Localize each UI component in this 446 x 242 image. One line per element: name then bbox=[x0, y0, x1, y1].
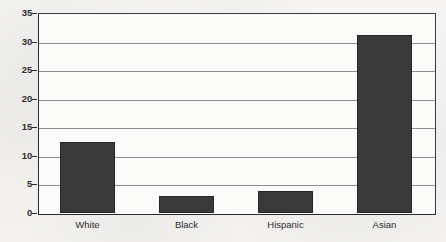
bar-slot bbox=[335, 13, 434, 213]
y-axis-tick-mark bbox=[32, 184, 37, 185]
y-axis-tick-mark bbox=[32, 213, 37, 214]
y-axis-tick-mark bbox=[32, 156, 37, 157]
bar-white[interactable] bbox=[60, 142, 115, 213]
y-axis-tick-label: 5 bbox=[6, 180, 32, 190]
x-axis-label-hispanic: Hispanic bbox=[236, 218, 335, 232]
bar-chart-figure: 05101520253035 WhiteBlackHispanicAsian bbox=[0, 0, 446, 242]
bar-slot bbox=[137, 13, 236, 213]
x-axis-label-black: Black bbox=[137, 218, 236, 232]
bar-black[interactable] bbox=[159, 196, 214, 213]
y-axis-tick-mark bbox=[32, 127, 37, 128]
y-axis-tick-label: 35 bbox=[6, 8, 32, 18]
bar-asian[interactable] bbox=[357, 35, 412, 213]
y-axis-tick-mark bbox=[32, 42, 37, 43]
bars-layer bbox=[38, 13, 434, 213]
y-axis-tick-label: 30 bbox=[6, 37, 32, 47]
y-axis: 05101520253035 bbox=[0, 13, 32, 213]
y-axis-tick-label: 20 bbox=[6, 94, 32, 104]
bar-slot bbox=[236, 13, 335, 213]
x-axis-label-asian: Asian bbox=[335, 218, 434, 232]
y-axis-tick-label: 10 bbox=[6, 151, 32, 161]
y-axis-tick-label: 25 bbox=[6, 65, 32, 75]
y-axis-tick-label: 15 bbox=[6, 123, 32, 133]
y-axis-tick-mark bbox=[32, 70, 37, 71]
y-axis-tick-mark bbox=[32, 99, 37, 100]
bar-slot bbox=[38, 13, 137, 213]
bar-hispanic[interactable] bbox=[258, 191, 313, 213]
x-axis: WhiteBlackHispanicAsian bbox=[38, 218, 434, 238]
y-axis-tick-mark bbox=[32, 13, 37, 14]
y-axis-tick-label: 0 bbox=[6, 208, 32, 218]
x-axis-label-white: White bbox=[38, 218, 137, 232]
